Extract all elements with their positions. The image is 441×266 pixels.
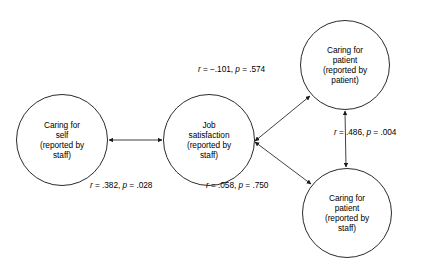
node-caring-for-patient-patient[interactable]: Caring for patient (reported by patient): [300, 20, 390, 110]
node-label-line: Caring for: [329, 193, 365, 203]
edge-label-jobsat-to-patient-patient: r = −.101, p = .574: [198, 64, 265, 74]
node-label-line: patient: [335, 203, 360, 213]
r-value: .058: [218, 180, 234, 190]
node-label-line: (reported by: [323, 65, 367, 75]
node-job-satisfaction-staff[interactable]: Job satisfaction (reported by staff): [163, 94, 255, 186]
node-label-line: patient): [331, 75, 358, 85]
r-equals: =: [337, 127, 346, 137]
p-value: .574: [249, 64, 265, 74]
p-equals: =: [127, 180, 136, 190]
p-value: .004: [380, 127, 396, 137]
node-label-line: (reported by: [187, 140, 231, 150]
node-caring-for-patient-staff[interactable]: Caring for patient (reported by staff): [302, 168, 392, 258]
p-equals: =: [243, 180, 252, 190]
edge-jobsat-to-patient-staff: [255, 142, 311, 184]
node-caring-for-self-staff[interactable]: Caring for self (reported by staff): [16, 94, 108, 186]
r-value: .486: [346, 127, 362, 137]
node-label-line: Caring for: [327, 45, 363, 55]
node-label-line: staff): [53, 150, 71, 160]
r-equals: =: [93, 180, 102, 190]
p-value: .028: [136, 180, 152, 190]
node-label-line: staff): [338, 223, 356, 233]
r-value: .382: [102, 180, 118, 190]
p-equals: =: [240, 64, 249, 74]
edge-label-jobsat-to-patient-staff: r = .058, p = .750: [206, 180, 268, 190]
r-equals: =: [209, 180, 218, 190]
edge-patient-patient-to-patient-staff: [345, 111, 346, 167]
r-equals: =: [201, 64, 210, 74]
r-value: −.101: [210, 64, 231, 74]
node-label-line: staff): [200, 150, 218, 160]
node-label-line: (reported by: [40, 140, 84, 150]
p-equals: =: [371, 127, 380, 137]
edge-label-self-to-jobsat: r = .382, p = .028: [90, 180, 152, 190]
node-label-line: patient: [333, 55, 358, 65]
p-value: .750: [252, 180, 268, 190]
edge-jobsat-to-patient-patient: [255, 96, 310, 141]
node-label-line: Job: [202, 120, 215, 130]
node-label-line: satisfaction: [189, 130, 230, 140]
node-label-line: (reported by: [325, 213, 369, 223]
node-label-line: Caring for: [44, 120, 80, 130]
correlation-diagram: Caring for self (reported by staff) Job …: [0, 0, 441, 266]
edge-label-patient-patient-to-patient-staff: r = .486, p = .004: [334, 127, 396, 137]
node-label-line: self: [56, 130, 69, 140]
